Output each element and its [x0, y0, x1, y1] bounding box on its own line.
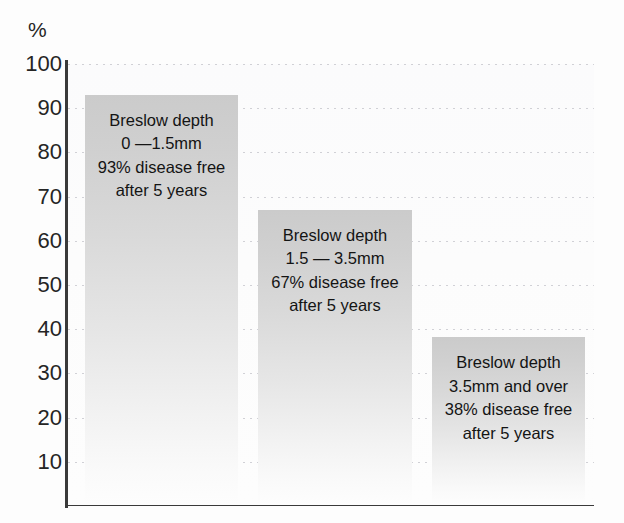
- y-axis-tick-labels: 100 90 80 70 60 50 40 30 20 10: [0, 0, 62, 523]
- bar-label-2-line1: Breslow depth: [432, 351, 585, 375]
- bar-breslow-1p5-3p5mm: Breslow depth 1.5 — 3.5mm 67% disease fr…: [258, 210, 412, 506]
- bar-label-0-line3: 93% disease free: [85, 156, 238, 180]
- y-tick-70: 70: [0, 186, 62, 208]
- bar-breslow-0-1p5mm: Breslow depth 0 —1.5mm 93% disease free …: [85, 95, 238, 505]
- bar-label-0-line4: after 5 years: [85, 179, 238, 203]
- bar-label-2-line3: 38% disease free: [432, 398, 585, 422]
- bar-label-2-line4: after 5 years: [432, 422, 585, 446]
- plot-area: Breslow depth 0 —1.5mm 93% disease free …: [68, 64, 594, 505]
- y-tick-30: 30: [0, 362, 62, 384]
- y-tick-90: 90: [0, 97, 62, 119]
- y-tick-40: 40: [0, 318, 62, 340]
- y-tick-20: 20: [0, 407, 62, 429]
- bar-breslow-3p5mm-and-over: Breslow depth 3.5mm and over 38% disease…: [432, 337, 585, 505]
- gridline-100: [68, 64, 594, 65]
- bar-label-0-line2: 0 —1.5mm: [85, 132, 238, 156]
- bar-label-2: Breslow depth 3.5mm and over 38% disease…: [432, 351, 585, 445]
- bar-label-1: Breslow depth 1.5 — 3.5mm 67% disease fr…: [258, 224, 412, 318]
- y-tick-60: 60: [0, 230, 62, 252]
- bar-label-1-line4: after 5 years: [258, 294, 412, 318]
- y-tick-100: 100: [0, 53, 62, 75]
- bar-label-1-line3: 67% disease free: [258, 271, 412, 295]
- bar-label-0: Breslow depth 0 —1.5mm 93% disease free …: [85, 109, 238, 203]
- bar-chart-figure: % 100 90 80 70 60 50 40 30 20 10 Breslow…: [0, 0, 624, 523]
- bar-label-0-line1: Breslow depth: [85, 109, 238, 133]
- bar-label-1-line1: Breslow depth: [258, 224, 412, 248]
- bar-label-2-line2: 3.5mm and over: [432, 375, 585, 399]
- y-tick-10: 10: [0, 451, 62, 473]
- bar-label-1-line2: 1.5 — 3.5mm: [258, 247, 412, 271]
- y-tick-50: 50: [0, 274, 62, 296]
- y-tick-80: 80: [0, 141, 62, 163]
